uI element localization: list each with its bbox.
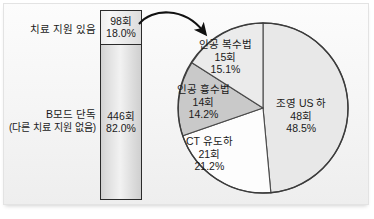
bar-segment-percent: 82.0% xyxy=(106,122,136,134)
bar-segment-treatment-support-yes: 98회 18.0% xyxy=(101,11,141,45)
bar-segment-count: 446회 xyxy=(107,110,135,122)
pie-label-text: 조영 US 하 xyxy=(276,97,326,110)
bar-label-text: B모드 단독 xyxy=(9,108,96,121)
pie-label-artificial-pleural-effusion: 인공 흉수법 14회 14.2% xyxy=(177,83,230,121)
bar-label-treatment-support-yes: 치료 지원 있음 xyxy=(30,23,96,36)
bar-segment-count: 98회 xyxy=(110,15,132,27)
bar-segment-b-mode-only: 446회 82.0% xyxy=(101,45,141,199)
figure-root: 98회 18.0% 446회 82.0% 치료 지원 있음 B모드 단독 (다른… xyxy=(0,0,374,219)
pie-label-count: 48회 xyxy=(276,110,326,123)
pie-label-count: 15회 xyxy=(199,51,252,64)
pie-label-text: 인공 흉수법 xyxy=(177,83,230,96)
bar-label-b-mode-only: B모드 단독 (다른 치료 지원 없음) xyxy=(9,108,96,134)
pie-label-artificial-ascites: 인공 복수법 15회 15.1% xyxy=(199,38,252,76)
pie-label-count: 14회 xyxy=(177,96,230,109)
pie-label-percent: 21.2% xyxy=(186,160,233,173)
bar-segment-percent: 18.0% xyxy=(106,27,136,39)
pie-label-contrast-us-guided: 조영 US 하 48회 48.5% xyxy=(276,97,326,135)
pie-label-text: 인공 복수법 xyxy=(199,38,252,51)
pie-label-ct-guided: CT 유도하 21회 21.2% xyxy=(186,135,233,173)
pie-label-percent: 14.2% xyxy=(177,108,230,121)
pie-label-percent: 15.1% xyxy=(199,63,252,76)
bar-label-subtext: (다른 치료 지원 없음) xyxy=(9,121,96,134)
pie-label-count: 21회 xyxy=(186,148,233,161)
pie-label-text: CT 유도하 xyxy=(186,135,233,148)
stacked-bar-chart: 98회 18.0% 446회 82.0% xyxy=(100,10,142,200)
bar-label-text: 치료 지원 있음 xyxy=(30,23,96,36)
pie-label-percent: 48.5% xyxy=(276,122,326,135)
